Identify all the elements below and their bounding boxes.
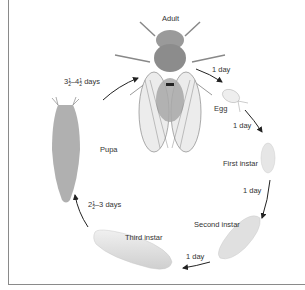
arrow-first-to-second: [262, 180, 270, 218]
label-first-instar: First instar: [223, 159, 258, 168]
arrow-second-to-third: [183, 262, 210, 268]
label-adult: Adult: [162, 14, 179, 23]
label-pupa: Pupa: [100, 145, 118, 154]
first-instar-icon: [261, 143, 275, 173]
label-second-instar: Second instar: [194, 220, 240, 229]
arrow-pupa-to-adult: [103, 78, 138, 100]
label-first-to-second-duration: 1 day: [243, 186, 261, 195]
label-egg-to-first-duration: 1 day: [233, 121, 251, 130]
arrow-third-to-pupa: [75, 195, 88, 227]
life-cycle-illustration: [0, 0, 305, 290]
pupa-icon: [52, 97, 80, 203]
adult-fly-icon: [115, 22, 225, 152]
label-adult-to-egg-duration: 1 day: [212, 65, 230, 74]
label-second-to-third-duration: 1 day: [186, 252, 204, 261]
label-egg: Egg: [214, 104, 227, 113]
label-third-instar: Third instar: [125, 233, 163, 242]
label-pupa-to-adult-duration: 312–412 days: [64, 77, 100, 86]
label-third-to-pupa-duration: 212–3 days: [88, 200, 121, 209]
